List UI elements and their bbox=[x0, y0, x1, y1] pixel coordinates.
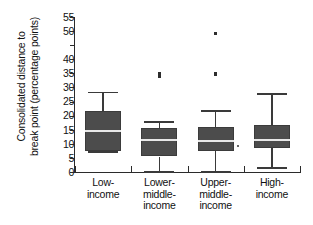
y-axis-tick-labels: 05101520253035405055 bbox=[48, 0, 74, 225]
y-tick-mark bbox=[70, 59, 75, 60]
x-category-label-4: High- income bbox=[244, 177, 300, 200]
y-tick-mark bbox=[70, 87, 75, 88]
y-tick-mark bbox=[70, 158, 75, 159]
upper-whisker-cap bbox=[201, 110, 231, 112]
lower-whisker-line bbox=[159, 157, 160, 172]
y-tick-mark bbox=[70, 102, 75, 103]
y-tick-mark bbox=[70, 73, 75, 74]
lower-whisker-cap bbox=[144, 171, 174, 173]
box-iqr-rect bbox=[254, 125, 290, 148]
median-line bbox=[141, 139, 177, 141]
median-line bbox=[198, 140, 234, 142]
x-axis-separator bbox=[131, 166, 132, 173]
outlier-point bbox=[158, 72, 161, 75]
box-iqr-rect bbox=[198, 127, 234, 151]
outlier-point bbox=[214, 72, 217, 75]
lower-whisker-cap bbox=[257, 167, 287, 169]
upper-whisker-line bbox=[215, 110, 216, 127]
y-tick-mark bbox=[70, 130, 75, 131]
lower-whisker-line bbox=[271, 148, 272, 167]
y-tick-mark bbox=[70, 17, 75, 18]
upper-whisker-line bbox=[271, 93, 272, 125]
upper-whisker-cap bbox=[257, 93, 287, 95]
median-line bbox=[254, 139, 290, 141]
box-iqr-rect bbox=[141, 128, 177, 156]
upper-whisker-cap bbox=[144, 121, 174, 123]
lower-whisker-cap bbox=[88, 151, 118, 153]
x-category-label-2: Lower- middle- income bbox=[131, 177, 187, 212]
lower-whisker-cap bbox=[201, 171, 231, 173]
lower-whisker-line bbox=[215, 151, 216, 171]
x-category-label-1: Low- income bbox=[75, 177, 131, 200]
outlier-point bbox=[214, 32, 217, 35]
x-axis-separator bbox=[188, 166, 189, 173]
y-tick-mark bbox=[70, 45, 75, 46]
y-axis-label: Consolidated distance to break point (pe… bbox=[15, 2, 40, 172]
x-category-label-3: Upper- middle- income bbox=[188, 177, 244, 212]
y-tick-mark bbox=[70, 31, 75, 32]
y-tick-mark bbox=[70, 144, 75, 145]
box-plot-figure: Consolidated distance to break point (pe… bbox=[0, 0, 313, 225]
y-tick-mark bbox=[70, 116, 75, 117]
outlier-point bbox=[237, 145, 239, 147]
upper-whisker-cap bbox=[88, 92, 118, 94]
x-axis-separator bbox=[75, 166, 76, 173]
median-line bbox=[85, 130, 121, 132]
x-axis-separator bbox=[300, 166, 301, 173]
x-axis-separator bbox=[244, 166, 245, 173]
upper-whisker-line bbox=[102, 92, 103, 112]
